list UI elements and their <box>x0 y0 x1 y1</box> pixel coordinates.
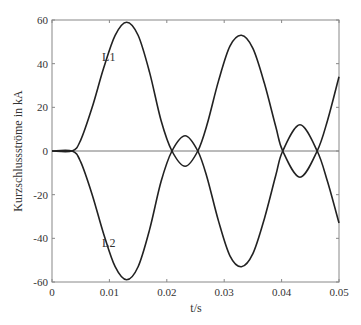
series-line-l1 <box>52 22 339 177</box>
x-tick-label: 0.05 <box>329 286 349 298</box>
x-tick-label: 0.02 <box>157 286 176 298</box>
plot-area <box>52 20 339 282</box>
y-tick-label: 60 <box>37 14 49 26</box>
y-tick-label: 20 <box>37 101 49 113</box>
x-axis-ticks: 00.010.020.030.040.05 <box>49 20 349 298</box>
y-tick-label: -60 <box>33 276 48 288</box>
series-label-l1: L1 <box>102 50 115 64</box>
x-tick-label: 0.04 <box>272 286 292 298</box>
x-tick-label: 0.03 <box>215 286 235 298</box>
x-axis-label: t/s <box>190 301 202 315</box>
y-tick-label: 0 <box>43 145 49 157</box>
series-line-l2 <box>52 125 339 280</box>
y-tick-label: -40 <box>33 232 48 244</box>
x-tick-label: 0 <box>49 286 55 298</box>
series-label-l2: L2 <box>102 236 115 250</box>
x-tick-label: 0.01 <box>100 286 119 298</box>
y-axis-label: Kurzschlussströme in kA <box>11 90 25 212</box>
y-tick-label: 40 <box>37 58 49 70</box>
line-chart: 6040200-20-40-60 00.010.020.030.040.05 t… <box>0 0 361 325</box>
y-tick-label: -20 <box>33 189 48 201</box>
